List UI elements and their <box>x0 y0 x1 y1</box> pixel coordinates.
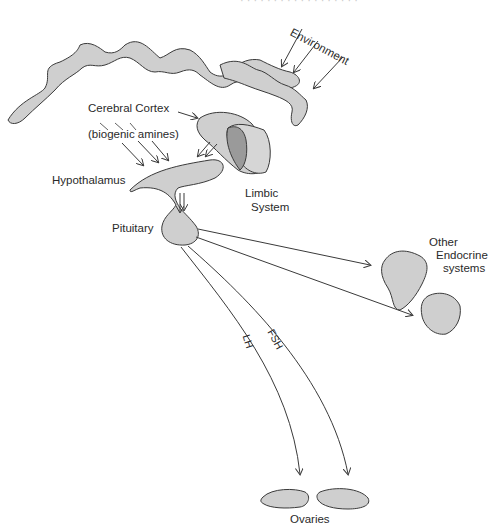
label-other-line2: Endocrine <box>436 249 488 262</box>
other-endocrine-shape-2 <box>421 293 460 334</box>
label-pituitary: Pituitary <box>112 222 154 235</box>
label-other-line1: Other <box>429 236 458 249</box>
ovary-right <box>317 489 369 509</box>
label-cerebral-cortex: Cerebral Cortex <box>88 102 169 115</box>
diagram-canvas: · · · · · · · · · · · · · · · · · · <box>0 0 492 526</box>
other-endocrine-shape-1 <box>382 251 427 310</box>
diagram-graphics <box>0 0 492 526</box>
label-limbic-line1: Limbic <box>245 187 278 200</box>
ovary-left <box>261 489 309 508</box>
label-other-line3: systems <box>443 262 485 275</box>
label-limbic-line2: System <box>251 201 289 214</box>
label-ovaries: Ovaries <box>290 513 330 526</box>
label-biogenic-amines: (biogenic amines) <box>88 128 179 141</box>
label-hypothalamus: Hypothalamus <box>52 174 126 187</box>
